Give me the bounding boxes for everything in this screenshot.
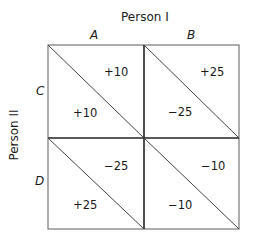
strategy-c-label: C [36,84,44,98]
payoff-ca-person2: +10 [73,106,97,120]
payoff-db-person2: −10 [168,198,192,212]
payoff-cb-person2: −25 [168,105,192,119]
payoff-da-person2: +25 [73,198,97,212]
payoff-grid [0,0,256,242]
column-player-label: Person I [121,10,169,24]
strategy-a-label: A [90,28,98,42]
row-player-label: Person II [7,105,21,165]
payoff-db-person1: −10 [201,159,225,173]
strategy-b-label: B [187,28,195,42]
payoff-ca-person1: +10 [104,65,128,79]
payoff-cb-person1: +25 [200,65,224,79]
strategy-d-label: D [35,174,44,188]
payoff-da-person1: −25 [104,159,128,173]
